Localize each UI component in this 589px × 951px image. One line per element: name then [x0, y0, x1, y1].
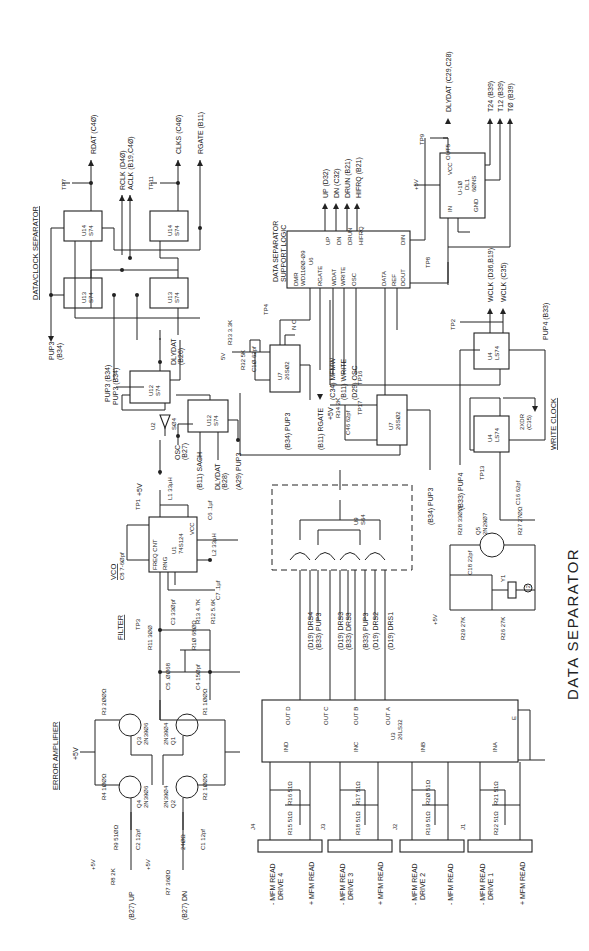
svg-text:(B27): (B27) — [181, 443, 189, 460]
svg-text:TP13: TP13 — [479, 465, 485, 480]
svg-text:U9: U9 — [353, 517, 359, 525]
svg-text:26SØ2: 26SØ2 — [284, 361, 290, 380]
svg-text:- MFM READ: - MFM READ — [339, 863, 346, 905]
svg-text:TP1: TP1 — [135, 498, 141, 510]
svg-text:DLYDAT (C29,C28): DLYDAT (C29,C28) — [445, 51, 453, 112]
svg-text:IN: IN — [447, 206, 453, 212]
svg-text:IND: IND — [283, 741, 289, 752]
svg-text:FREQ CNT: FREQ CNT — [152, 539, 158, 570]
svg-text:+ MFM READ: + MFM READ — [308, 862, 315, 905]
svg-text:U4: U4 — [487, 434, 493, 442]
svg-text:U7: U7 — [277, 372, 283, 380]
diagram-title: DATA SEPARATOR — [564, 548, 581, 700]
svg-text:(B34): (B34) — [56, 343, 64, 360]
svg-text:U13: U13 — [81, 291, 87, 303]
connectors: J4 J3 J2 J1 - MFM READ DRIVE 4 + MFM REA… — [250, 762, 532, 905]
u4a-ls74 — [474, 333, 509, 369]
svg-text:PUP4 (B33): PUP4 (B33) — [542, 303, 550, 340]
svg-text:WCLK (C35): WCLK (C35) — [500, 262, 508, 302]
q3-transistor — [119, 714, 141, 736]
svg-text:SUPPORT LOGIC: SUPPORT LOGIC — [280, 225, 287, 282]
error-amplifier-section: ERROR AMPLIFIER +5V R3 2ØØΩ Q3 2N39Ø6 2N… — [51, 688, 240, 920]
svg-text:- MFM READ: - MFM READ — [479, 863, 486, 905]
clks-output-label: CLKS (C4Ø) — [175, 115, 183, 154]
svg-text:DRIVE 3: DRIVE 3 — [347, 873, 354, 900]
svg-text:VCC: VCC — [189, 522, 195, 535]
svg-text:R27 27ØΩ: R27 27ØΩ — [517, 506, 523, 535]
svg-text:J2: J2 — [392, 823, 398, 830]
svg-text:C1 12pf: C1 12pf — [200, 829, 206, 850]
svg-text:C1Ø 62pf: C1Ø 62pf — [251, 346, 257, 372]
svg-text:VCC: VCC — [447, 162, 453, 175]
aclk-output-label: ACLK (B19,C4Ø) — [127, 136, 135, 190]
svg-text:OSC: OSC — [174, 445, 181, 460]
svg-text:2N29Ø7: 2N29Ø7 — [482, 512, 488, 535]
svg-text:(D19) DRS3: (D19) DRS3 — [337, 612, 345, 650]
svg-text:(B33) PUP4: (B33) PUP4 — [457, 473, 465, 510]
data-clock-separator-section: DATA/CLOCK SEPARATOR U14 S74 U14 S74 U13… — [31, 112, 205, 380]
svg-text:S64: S64 — [360, 514, 366, 525]
svg-text:(A29) PUP3: (A29) PUP3 — [235, 453, 243, 490]
svg-text:R4 1ØØΩ: R4 1ØØΩ — [101, 773, 107, 800]
svg-text:S74: S74 — [155, 385, 161, 396]
svg-text:S74: S74 — [88, 225, 94, 236]
svg-text:C7 .1µf: C7 .1µf — [215, 580, 221, 600]
q1-transistor — [176, 714, 198, 736]
svg-text:2N39Ø6: 2N39Ø6 — [143, 722, 149, 745]
u9-gate-section: U9 S64 (D19) DRS4 (B33) PUP3 (D19) DRS3 … — [272, 470, 412, 700]
svg-text:TP8: TP8 — [425, 256, 431, 268]
svg-text:+ MFM READ: + MFM READ — [519, 862, 526, 905]
svg-text:R19 51Ω: R19 51Ω — [425, 811, 431, 835]
svg-text:C2 12pf: C2 12pf — [135, 829, 141, 850]
svg-text:R18 51Ω: R18 51Ω — [355, 811, 361, 835]
svg-text:PUP3 (B34): PUP3 (B34) — [104, 365, 112, 402]
j4-connector — [258, 840, 322, 852]
svg-text:C5 .ØØ68: C5 .ØØ68 — [165, 662, 171, 690]
svg-text:Q1: Q1 — [170, 736, 176, 745]
svg-text:HIFRQ (B21): HIFRQ (B21) — [355, 157, 363, 198]
svg-text:R22 51Ω: R22 51Ω — [493, 811, 499, 835]
svg-text:L1 33µH: L1 33µH — [167, 477, 173, 500]
svg-text:SØ4: SØ4 — [171, 417, 177, 430]
svg-text:PUP3: PUP3 — [48, 342, 55, 360]
svg-text:J3: J3 — [320, 823, 326, 830]
svg-text:OUT A: OUT A — [385, 707, 391, 725]
svg-text:TP17: TP17 — [357, 400, 363, 415]
svg-text:(D19) DRS2: (D19) DRS2 — [372, 612, 380, 650]
svg-text:DRUN: DRUN — [347, 228, 353, 245]
svg-text:R21 51Ω: R21 51Ω — [493, 781, 499, 805]
svg-text:R9 51ØΩ: R9 51ØΩ — [113, 824, 119, 850]
b27-dn-input: (B27) DN — [181, 891, 189, 920]
svg-text:L2 33µH: L2 33µH — [211, 533, 217, 556]
svg-text:C8 7-6Øpf: C8 7-6Øpf — [119, 552, 125, 580]
svg-text:DATA: DATA — [381, 271, 387, 286]
u3-receiver-section: OUT D OUT C OUT B OUT A U3 26LS32 IND IN… — [262, 700, 545, 762]
svg-text:R8 2K: R8 2K — [110, 868, 116, 885]
svg-text:DRIVE 1: DRIVE 1 — [487, 873, 494, 900]
svg-text:C18 22pf: C18 22pf — [467, 550, 473, 575]
svg-text:(B26): (B26) — [177, 348, 185, 365]
svg-text:C46 62pf: C46 62pf — [345, 410, 351, 435]
svg-text:C16 62pf: C16 62pf — [515, 480, 521, 505]
svg-text:U2: U2 — [150, 422, 156, 430]
svg-text:WD11ØØ-Ø9: WD11ØØ-Ø9 — [300, 250, 306, 286]
svg-text:+5V: +5V — [145, 859, 151, 870]
svg-text:REF: REF — [391, 274, 397, 286]
svg-text:24ØΩ: 24ØΩ — [180, 834, 186, 850]
svg-text:Q5: Q5 — [475, 526, 481, 535]
svg-text:U1: U1 — [171, 546, 177, 554]
svg-text:26SØ2: 26SØ2 — [395, 411, 401, 430]
svg-text:R3 2ØØΩ: R3 2ØØΩ — [101, 688, 107, 715]
svg-text:R15 51Ω: R15 51Ω — [287, 811, 293, 835]
svg-text:R7 36ØΩ: R7 36ØΩ — [165, 869, 171, 895]
svg-text:VCO: VCO — [109, 564, 118, 580]
svg-text:R17 51Ω: R17 51Ω — [355, 781, 361, 805]
pup3-b34-label: PUP3 (B34) — [112, 368, 120, 405]
svg-text:TP3: TP3 — [135, 618, 141, 630]
svg-text:C6 .1µf: C6 .1µf — [207, 500, 213, 520]
svg-text:+ MFM READ: + MFM READ — [377, 862, 384, 905]
svg-text:Q4: Q4 — [136, 799, 142, 808]
svg-text:U14: U14 — [167, 224, 173, 236]
svg-text:2N39Ø4: 2N39Ø4 — [163, 785, 169, 808]
rgate-output-label: RGATE (B11) — [197, 112, 205, 154]
